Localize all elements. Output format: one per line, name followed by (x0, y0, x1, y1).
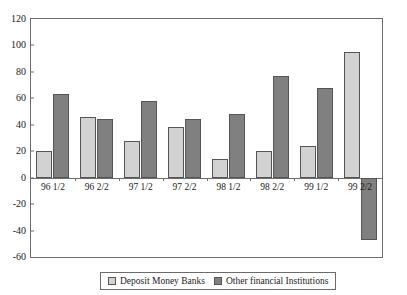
bar-chart: 120100806040200-20-40-60 96 1/296 2/297 … (0, 0, 407, 295)
legend-label: Other financial Institutions (226, 276, 328, 287)
x-axis-tick-label: 99 2/2 (348, 181, 372, 193)
x-axis-tick-label: 98 1/2 (216, 181, 240, 193)
bar (80, 117, 96, 178)
y-axis-tick-label: -20 (13, 199, 26, 209)
y-axis-tick-label: 60 (16, 93, 26, 103)
chart-legend: Deposit Money BanksOther financial Insti… (100, 272, 336, 290)
legend-entry[interactable]: Other financial Institutions (214, 276, 328, 287)
y-axis-tick-labels: 120100806040200-20-40-60 (0, 18, 26, 258)
y-axis-tick-label: 40 (16, 120, 26, 130)
bar (36, 151, 52, 177)
x-axis-tick-labels: 96 1/296 2/297 1/297 2/298 1/298 2/299 1… (31, 181, 382, 195)
bar (344, 52, 360, 178)
bar (97, 119, 113, 177)
bar (256, 151, 272, 177)
bar-group (256, 19, 289, 257)
bar (300, 146, 316, 178)
bar-group (212, 19, 245, 257)
y-axis-tick-label: 120 (11, 14, 26, 24)
legend-swatch-icon (214, 277, 222, 285)
x-axis-tick-label: 99 1/2 (304, 181, 328, 193)
legend-swatch-icon (108, 277, 116, 285)
bar-group (344, 19, 377, 257)
bar (168, 127, 184, 177)
bar (212, 159, 228, 178)
y-axis-tick-label: 0 (21, 173, 26, 183)
legend-entry[interactable]: Deposit Money Banks (108, 276, 205, 287)
bar (185, 119, 201, 177)
x-axis-tick-label: 97 1/2 (129, 181, 153, 193)
x-axis-tick-label: 96 1/2 (41, 181, 65, 193)
bar (273, 76, 289, 178)
bar-group (80, 19, 113, 257)
bar (317, 88, 333, 178)
bars-layer (31, 19, 382, 257)
bar-group (124, 19, 157, 257)
y-axis-tick-label: 80 (16, 67, 26, 77)
x-axis-tick-label: 97 2/2 (173, 181, 197, 193)
bar (53, 94, 69, 177)
bar (229, 114, 245, 177)
y-axis-tick-label: 20 (16, 146, 26, 156)
x-axis-tick-label: 96 2/2 (85, 181, 109, 193)
legend-label: Deposit Money Banks (120, 276, 205, 287)
y-axis-tick-label: -60 (13, 252, 26, 262)
x-axis-tick-label: 98 2/2 (260, 181, 284, 193)
y-axis-tick-label: 100 (11, 40, 26, 50)
bar-group (36, 19, 69, 257)
bar-group (168, 19, 201, 257)
bar (124, 141, 140, 178)
bar (141, 101, 157, 178)
bar-group (300, 19, 333, 257)
y-axis-tick-label: -40 (13, 226, 26, 236)
